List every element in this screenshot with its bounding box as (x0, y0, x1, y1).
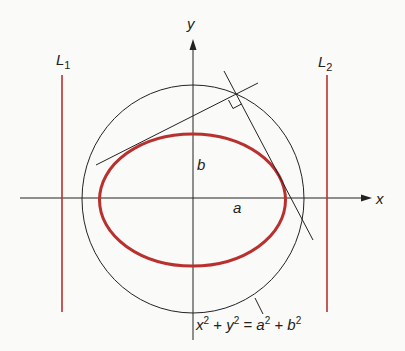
semi-major-label: a (233, 199, 241, 216)
y-axis-arrow-icon (190, 39, 197, 50)
x-axis-arrow-icon (361, 195, 372, 202)
ellipse-director-circle-diagram: x y L1 L2 b a x2 + y2 = a2 + b2 (0, 0, 405, 351)
circle-equation: x2 + y2 = a2 + b2 (195, 315, 302, 333)
tangent-line-1 (96, 83, 258, 165)
line-l1-label: L1 (56, 51, 70, 71)
line-l2-label: L2 (318, 53, 332, 73)
equation-leader-line (255, 298, 263, 314)
x-axis-label: x (375, 190, 384, 207)
semi-minor-label: b (197, 156, 205, 173)
y-axis-label: y (186, 15, 196, 32)
